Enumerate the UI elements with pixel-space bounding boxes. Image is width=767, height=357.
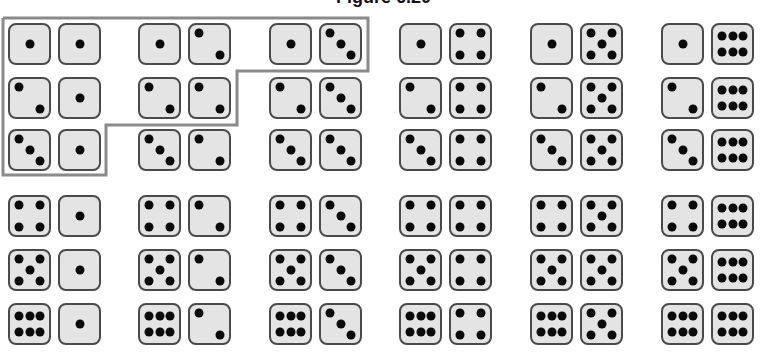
pip-dot-icon (347, 156, 356, 165)
pip-dot-icon (144, 276, 153, 285)
pip-dot-icon (739, 204, 748, 213)
die-face-five-icon (530, 249, 573, 291)
die-face-three-icon (530, 129, 573, 171)
pip-dot-icon (477, 156, 486, 165)
die-face-three-icon (319, 129, 362, 171)
pip-dot-icon (477, 201, 486, 210)
pip-dot-icon (405, 312, 414, 321)
pip-dot-icon (608, 29, 617, 38)
pip-dot-icon (455, 255, 464, 264)
pip-dot-icon (667, 135, 676, 144)
die-face-three-icon (661, 129, 704, 171)
dice-pair-2-1 (8, 77, 102, 120)
pip-dot-icon (405, 135, 414, 144)
die-face-six-icon (711, 23, 754, 65)
pip-dot-icon (689, 312, 698, 321)
pip-dot-icon (667, 312, 676, 321)
die-face-one-icon (58, 77, 101, 119)
die-face-six-icon (711, 249, 754, 291)
pip-dot-icon (536, 255, 545, 264)
pip-dot-icon (297, 255, 306, 264)
pip-dot-icon (477, 83, 486, 92)
pip-dot-icon (536, 135, 545, 144)
pip-dot-icon (728, 47, 737, 56)
die-face-four-icon (530, 195, 573, 237)
pip-dot-icon (717, 86, 726, 95)
pip-dot-icon (347, 222, 356, 231)
pip-dot-icon (144, 83, 153, 92)
dice-pair-3-4 (399, 129, 493, 172)
die-face-four-icon (661, 195, 704, 237)
die-face-four-icon (449, 195, 492, 237)
die-face-one-icon (661, 23, 704, 65)
pip-dot-icon (728, 153, 737, 162)
die-face-three-icon (319, 195, 362, 237)
dice-pair-3-6 (661, 129, 755, 172)
pip-dot-icon (166, 104, 175, 113)
pip-dot-icon (728, 32, 737, 41)
pip-dot-icon (25, 40, 34, 49)
pip-dot-icon (739, 47, 748, 56)
pip-dot-icon (325, 83, 334, 92)
pip-dot-icon (25, 146, 34, 155)
pip-dot-icon (275, 222, 284, 231)
pip-dot-icon (297, 222, 306, 231)
pip-dot-icon (166, 201, 175, 210)
pip-dot-icon (728, 86, 737, 95)
pip-dot-icon (477, 29, 486, 38)
pip-dot-icon (405, 83, 414, 92)
pip-dot-icon (608, 83, 617, 92)
pip-dot-icon (216, 222, 225, 231)
die-face-three-icon (319, 23, 362, 65)
pip-dot-icon (717, 219, 726, 228)
pip-dot-icon (194, 309, 203, 318)
die-face-one-icon (269, 23, 312, 65)
dice-pair-3-3 (269, 129, 363, 172)
pip-dot-icon (14, 135, 23, 144)
pip-dot-icon (155, 312, 164, 321)
pip-dot-icon (558, 327, 567, 336)
pip-dot-icon (427, 222, 436, 231)
pip-dot-icon (547, 327, 556, 336)
pip-dot-icon (14, 327, 23, 336)
dice-pair-1-2 (138, 23, 232, 66)
pip-dot-icon (597, 94, 606, 103)
pip-dot-icon (689, 104, 698, 113)
pip-dot-icon (586, 50, 595, 59)
pip-dot-icon (14, 312, 23, 321)
dice-pair-4-2 (138, 195, 232, 238)
die-face-four-icon (449, 249, 492, 291)
pip-dot-icon (194, 201, 203, 210)
pip-dot-icon (36, 276, 45, 285)
pip-dot-icon (547, 312, 556, 321)
pip-dot-icon (325, 255, 334, 264)
dice-pair-1-5 (530, 23, 624, 66)
pip-dot-icon (558, 104, 567, 113)
pip-dot-icon (608, 276, 617, 285)
pip-dot-icon (336, 266, 345, 275)
die-face-two-icon (269, 77, 312, 119)
pip-dot-icon (689, 156, 698, 165)
pip-dot-icon (216, 330, 225, 339)
pip-dot-icon (608, 135, 617, 144)
pip-dot-icon (728, 327, 737, 336)
pip-dot-icon (155, 40, 164, 49)
dice-pair-1-6 (661, 23, 755, 66)
pip-dot-icon (477, 255, 486, 264)
pip-dot-icon (586, 135, 595, 144)
die-face-one-icon (138, 23, 181, 65)
pip-dot-icon (155, 327, 164, 336)
die-face-three-icon (399, 129, 442, 171)
pip-dot-icon (144, 312, 153, 321)
pip-dot-icon (739, 86, 748, 95)
die-face-one-icon (399, 23, 442, 65)
pip-dot-icon (667, 83, 676, 92)
die-face-six-icon (711, 77, 754, 119)
dice-pair-6-2 (138, 303, 232, 346)
pip-dot-icon (297, 327, 306, 336)
dice-pair-5-5 (530, 249, 624, 292)
pip-dot-icon (14, 255, 23, 264)
dice-pair-2-5 (530, 77, 624, 120)
pip-dot-icon (689, 327, 698, 336)
pip-dot-icon (586, 276, 595, 285)
